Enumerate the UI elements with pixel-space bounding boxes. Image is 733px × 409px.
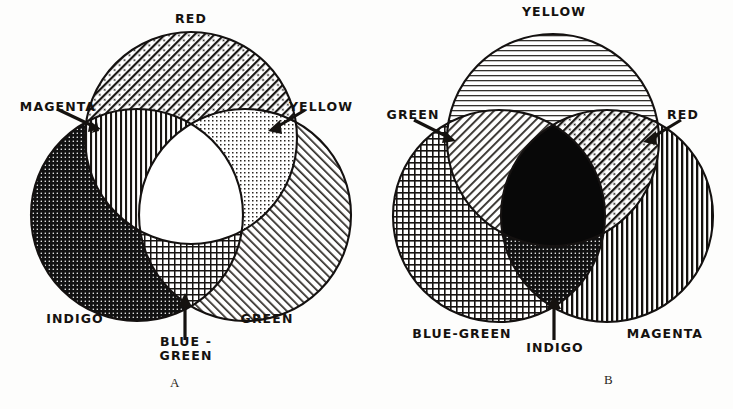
caption-b: B	[604, 372, 613, 388]
caption-a: A	[170, 375, 180, 391]
label-indigo: INDIGO	[506, 341, 604, 355]
venn-panel-a: MAGENTA RED YELLOW INDIGO BLUE - GREEN G…	[0, 0, 366, 409]
label-blue-green: BLUE - GREEN	[143, 335, 229, 362]
label-blue-green-line2: GREEN	[160, 348, 213, 363]
label-red: RED	[148, 12, 234, 26]
label-magenta: MAGENTA	[606, 327, 724, 341]
figure-root: MAGENTA RED YELLOW INDIGO BLUE - GREEN G…	[0, 0, 733, 409]
label-indigo: INDIGO	[22, 312, 128, 326]
label-blue-green: BLUE-GREEN	[384, 327, 540, 341]
venn-panel-b: YELLOW GREEN RED BLUE-GREEN INDIGO MAGEN…	[366, 0, 733, 409]
label-magenta: MAGENTA	[2, 100, 114, 114]
label-green: GREEN	[222, 312, 312, 326]
label-yellow: YELLOW	[492, 5, 616, 19]
label-green: GREEN	[364, 108, 462, 122]
label-red: RED	[646, 108, 720, 122]
label-yellow: YELLOW	[278, 100, 364, 114]
